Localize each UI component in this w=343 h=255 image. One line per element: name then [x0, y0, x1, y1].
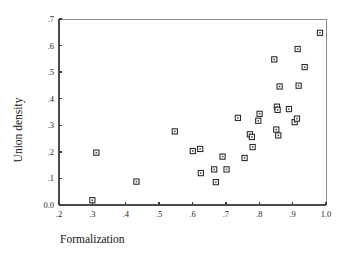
x-tick-label: .3	[89, 209, 95, 219]
data-point	[286, 106, 291, 111]
x-tick-label: .8	[256, 209, 262, 219]
data-point	[272, 57, 277, 62]
data-point	[274, 127, 279, 132]
y-tick-label: .3	[48, 120, 54, 130]
data-point	[295, 46, 300, 51]
x-tick-label: .7	[223, 209, 229, 219]
y-tick-label: .5	[48, 67, 54, 77]
x-tick-label: .2	[56, 209, 62, 219]
data-point	[276, 133, 281, 138]
x-axis-title: Formalization	[60, 233, 125, 245]
data-point	[302, 64, 307, 69]
data-point	[94, 150, 99, 155]
x-tick-label: .4	[123, 209, 130, 219]
x-tick-label: .5	[156, 209, 162, 219]
data-point	[296, 83, 301, 88]
data-point	[242, 155, 247, 160]
data-point	[277, 84, 282, 89]
data-points	[90, 30, 323, 203]
data-point	[190, 148, 195, 153]
plot-canvas: .2.3.4.5.6.7.8.91.00.0.1.2.3.4.5.6.7 For…	[0, 0, 343, 255]
data-point	[220, 154, 225, 159]
data-point	[90, 198, 95, 203]
data-point	[224, 167, 229, 172]
x-tick-label: .6	[189, 209, 195, 219]
data-point	[213, 180, 218, 185]
data-point	[172, 129, 177, 134]
x-tick-label: 1.0	[321, 209, 332, 219]
data-point	[249, 134, 254, 139]
data-point	[257, 111, 262, 116]
data-point	[294, 116, 299, 121]
data-point	[250, 144, 255, 149]
data-point	[198, 146, 203, 151]
data-point	[275, 107, 280, 112]
y-axis-title: Union density	[12, 97, 25, 162]
y-tick-label: .4	[48, 94, 55, 104]
data-point	[198, 171, 203, 176]
data-point	[235, 115, 240, 120]
data-point	[256, 118, 261, 123]
data-point	[134, 179, 139, 184]
x-tick-label: .9	[289, 209, 295, 219]
y-tick-label: 0.0	[43, 200, 54, 210]
data-point	[212, 167, 217, 172]
y-tick-label: .7	[48, 14, 54, 24]
axis-tick-labels: .2.3.4.5.6.7.8.91.00.0.1.2.3.4.5.6.7	[43, 14, 331, 219]
y-tick-label: .6	[48, 41, 54, 51]
data-point	[317, 30, 322, 35]
y-tick-label: .2	[48, 147, 54, 157]
y-tick-label: .1	[48, 173, 54, 183]
scatter-plot-figure: .2.3.4.5.6.7.8.91.00.0.1.2.3.4.5.6.7 For…	[0, 0, 343, 255]
